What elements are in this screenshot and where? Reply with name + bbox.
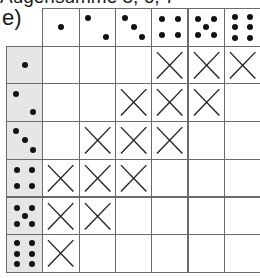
die-pip-icon (13, 128, 19, 134)
cross-mark-icon (116, 122, 151, 159)
table-corner (6, 8, 43, 47)
die-pip-icon (22, 213, 28, 219)
table-cell[interactable] (42, 234, 79, 273)
table-cell[interactable] (188, 83, 225, 122)
table-cell[interactable] (42, 121, 79, 160)
cross-mark-icon (225, 47, 260, 84)
cross-mark-icon (43, 160, 78, 197)
die-pip-icon (58, 24, 64, 30)
table-cell[interactable] (42, 83, 79, 122)
cross-mark-icon (80, 122, 115, 159)
table-cell[interactable] (224, 46, 260, 85)
die-pip-icon (29, 183, 35, 189)
die-pip-icon (175, 32, 181, 38)
table-cell[interactable] (115, 121, 152, 160)
cross-mark-icon (189, 84, 224, 121)
table-cell[interactable] (79, 159, 116, 198)
table-cell[interactable] (42, 197, 79, 236)
cross-mark-icon (80, 198, 115, 235)
die-pip-icon (14, 251, 20, 257)
die-pip-icon (30, 109, 36, 115)
row-header-die-6 (6, 234, 43, 273)
die-pip-icon (195, 16, 201, 22)
column-header-die-4 (151, 8, 188, 47)
table-cell[interactable] (224, 197, 260, 236)
column-header-die-1 (42, 8, 79, 47)
table-cell[interactable] (151, 83, 188, 122)
table-cell[interactable] (188, 234, 225, 273)
die-pip-icon (22, 137, 28, 143)
cross-mark-icon (43, 198, 78, 235)
die-pip-icon (159, 16, 165, 22)
table-cell[interactable] (188, 159, 225, 198)
table-cell[interactable] (42, 46, 79, 85)
die-pip-icon (14, 240, 20, 246)
table-cell[interactable] (151, 46, 188, 85)
cross-mark-icon (152, 122, 187, 159)
die-pip-icon (103, 34, 109, 40)
die-pip-icon (14, 167, 20, 173)
table-cell[interactable] (79, 46, 116, 85)
table-cell[interactable] (224, 121, 260, 160)
table-cell[interactable] (79, 83, 116, 122)
cross-mark-icon (189, 47, 224, 84)
die-pip-icon (247, 14, 253, 20)
die-pip-icon (14, 261, 20, 267)
die-pip-icon (14, 183, 20, 189)
die-pip-icon (195, 32, 201, 38)
die-pip-icon (232, 14, 238, 20)
die-pip-icon (232, 35, 238, 41)
column-header-die-2 (79, 8, 116, 47)
table-cell[interactable] (188, 121, 225, 160)
die-pip-icon (22, 62, 28, 68)
table-cell[interactable] (224, 234, 260, 273)
table-cell[interactable] (79, 234, 116, 273)
die-pip-icon (29, 205, 35, 211)
cross-mark-icon (43, 235, 78, 272)
cross-mark-icon (116, 160, 151, 197)
die-pip-icon (29, 261, 35, 267)
table-cell[interactable] (115, 159, 152, 198)
die-pip-icon (247, 24, 253, 30)
die-pip-icon (14, 221, 20, 227)
table-cell[interactable] (151, 121, 188, 160)
die-pip-icon (131, 24, 137, 30)
die-pip-icon (159, 32, 165, 38)
column-header-die-3 (115, 8, 152, 47)
table-cell[interactable] (224, 83, 260, 122)
die-pip-icon (175, 16, 181, 22)
table-cell[interactable] (151, 234, 188, 273)
die-pip-icon (29, 221, 35, 227)
die-pip-icon (232, 24, 238, 30)
die-pip-icon (211, 32, 217, 38)
table-cell[interactable] (224, 159, 260, 198)
row-header-die-1 (6, 46, 43, 85)
die-pip-icon (211, 16, 217, 22)
table-cell[interactable] (115, 234, 152, 273)
cross-mark-icon (116, 84, 151, 121)
table-cell[interactable] (151, 197, 188, 236)
cross-mark-icon (80, 160, 115, 197)
die-pip-icon (139, 34, 145, 40)
row-header-die-4 (6, 159, 43, 198)
table-cell[interactable] (115, 197, 152, 236)
die-pip-icon (85, 15, 91, 21)
table-cell[interactable] (188, 46, 225, 85)
die-pip-icon (29, 167, 35, 173)
column-header-die-6 (224, 8, 260, 47)
page-title: Augensumme 5, 6, 7 (0, 0, 175, 6)
die-pip-icon (30, 147, 36, 153)
table-cell[interactable] (79, 197, 116, 236)
row-header-die-3 (6, 121, 43, 160)
table-cell[interactable] (188, 197, 225, 236)
row-header-die-5 (6, 197, 43, 236)
die-pip-icon (122, 15, 128, 21)
table-cell[interactable] (42, 159, 79, 198)
cross-mark-icon (152, 47, 187, 84)
table-cell[interactable] (115, 83, 152, 122)
table-cell[interactable] (151, 159, 188, 198)
cross-mark-icon (152, 84, 187, 121)
table-cell[interactable] (115, 46, 152, 85)
table-cell[interactable] (79, 121, 116, 160)
row-header-die-2 (6, 83, 43, 122)
